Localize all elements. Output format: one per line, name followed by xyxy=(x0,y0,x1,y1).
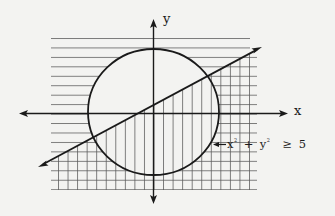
inequality-y-exponent: 2 xyxy=(267,137,271,143)
inequality-x-term: x xyxy=(227,137,234,151)
inequality-x-exponent: 2 xyxy=(234,137,238,143)
inequality-y-term: y xyxy=(260,137,267,151)
graph-canvas xyxy=(0,0,335,216)
inequality-label: x2+y2≥5 xyxy=(227,138,306,151)
inequality-value: 5 xyxy=(299,137,307,151)
inequality-relation: ≥ xyxy=(283,137,293,151)
x-axis-label: x xyxy=(294,104,301,117)
inequality-plus: + xyxy=(244,137,254,151)
graph-diagram: y x x2+y2≥5 xyxy=(0,0,335,216)
y-axis-label: y xyxy=(163,12,170,25)
